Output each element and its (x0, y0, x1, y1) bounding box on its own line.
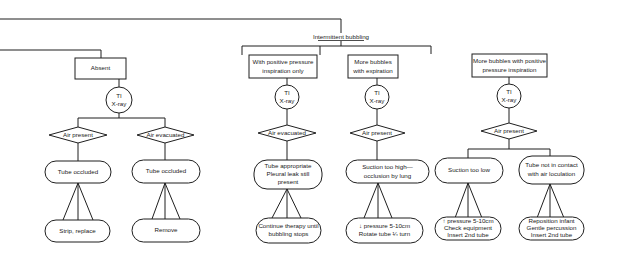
check-line: TI (374, 89, 380, 96)
action-text: Insert 2nd tube (447, 231, 489, 238)
absent-condition-text: Absent (91, 64, 111, 71)
check-line: X-ray (370, 97, 386, 104)
cause-text: Suction too low (448, 166, 490, 173)
action-text: Reposition infant (528, 217, 574, 224)
intermittent-bubbling-label: Intermittent bubbling (242, 33, 431, 55)
action-text: Gentle percussion (527, 224, 577, 231)
check-line: TI (506, 88, 512, 95)
check-line: X-ray (280, 97, 296, 104)
condition-text: inspiration only (262, 67, 304, 74)
finding-text: Air present (494, 127, 524, 134)
check-line: X-ray (502, 96, 518, 103)
cause-text: with air loculation (527, 170, 576, 177)
finding-text: Air evacuated (147, 131, 185, 138)
condition-text: With positive pressure (253, 58, 314, 65)
condition-text: More bubbles with positive (473, 57, 546, 64)
intermittent-branch-1: With positive pressure inspiration only … (249, 55, 322, 243)
cause-text: Tube occluded (146, 167, 187, 174)
cause-text: Tube appropriate (265, 162, 312, 169)
cause-text: present (278, 178, 299, 185)
action-text: bubbling stops (269, 230, 309, 237)
cause-text: Tube occluded (58, 168, 99, 175)
action-text: Continue therapy until (258, 222, 318, 229)
check-line: TI (116, 92, 122, 99)
multi-edge (152, 183, 180, 219)
action-text: Strip, replace (59, 227, 96, 234)
action-text: ↓ pressure 5-10cm (359, 222, 410, 229)
connector-to-absent (0, 50, 101, 58)
top-connectors (0, 19, 341, 58)
action-text: ↑ pressure 5-10cm (442, 217, 493, 224)
flowchart: Intermittent bubbling Absent TI X-ray Ai… (0, 0, 618, 260)
connector-to-intermittent (0, 19, 341, 33)
action-text: Insert 2nd tube (531, 231, 573, 238)
action-text: Remove (154, 226, 178, 233)
condition-text: with expiration (352, 67, 393, 74)
cause-text: Tube not in contact (525, 161, 578, 168)
finding-text: Air present (63, 131, 93, 138)
intermittent-branch-3: More bubbles with positive pressure insp… (435, 54, 584, 240)
action-text: Check equipment (444, 224, 492, 231)
condition-text: pressure inspiration (483, 66, 538, 73)
check-line: X-ray (112, 100, 128, 107)
condition-text: More bubbles (354, 58, 392, 65)
cause-text: Suction too high— (362, 163, 413, 170)
finding-text: Air evacuated (268, 129, 306, 136)
intermittent-branch-2: More bubbles with expiration TI X-ray Ai… (346, 55, 429, 243)
finding-text: Air present (362, 129, 392, 136)
check-line: TI (284, 89, 290, 96)
cause-text: occlusion by lung (364, 172, 412, 179)
cause-text: Pleural leak still (267, 170, 310, 177)
absent-branch: Absent TI X-ray Air present Tube occlude… (45, 58, 200, 242)
branch-label: Intermittent bubbling (313, 33, 370, 40)
action-text: Rotate tube ¼ turn (359, 230, 411, 237)
